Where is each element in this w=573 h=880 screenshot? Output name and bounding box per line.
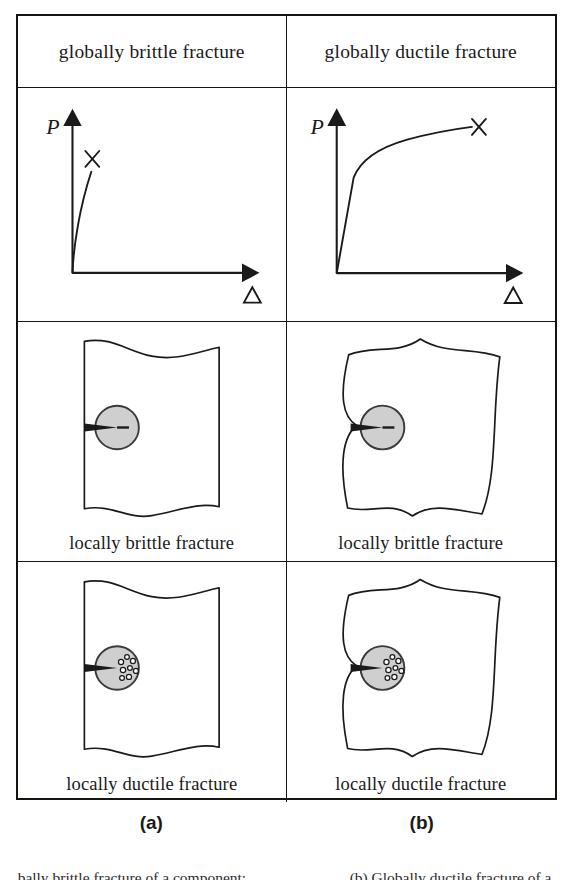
fracture-matrix-table: globally brittle fracture globally ducti… xyxy=(16,14,557,800)
panel-label-b: (b) xyxy=(287,806,558,840)
figure-caption-left: ...bally brittle fracture of a component… xyxy=(6,868,246,880)
ductile-load-displacement-chart: P xyxy=(287,88,556,321)
x-axis-label-delta-glyph xyxy=(244,287,261,302)
header-cell-globally-brittle: globally brittle fracture xyxy=(18,16,287,88)
y-axis-label: P xyxy=(309,115,323,139)
load-displacement-curve xyxy=(72,172,91,273)
header-label-globally-ductile: globally ductile fracture xyxy=(325,40,517,64)
specimen-cell-ductile-global-brittle-local: locally brittle fracture xyxy=(287,322,556,562)
specimen-cell-brittle-global-ductile-local: locally ductile fracture xyxy=(18,562,287,802)
figure-caption-right: (b) Globally ductile fracture of a ... xyxy=(350,868,567,880)
specimen-cell-brittle-global-brittle-local: locally brittle fracture xyxy=(18,322,287,562)
figure-caption: ...bally brittle fracture of a component… xyxy=(0,868,573,880)
specimen-undeformed-brittle-zone xyxy=(18,322,286,532)
fracture-classification-figure: globally brittle fracture globally ducti… xyxy=(0,0,573,880)
specimen-caption: locally brittle fracture xyxy=(18,532,286,561)
failure-marker-x xyxy=(85,151,99,167)
specimen-caption: locally ductile fracture xyxy=(18,773,286,802)
y-axis-label: P xyxy=(45,115,59,139)
panel-label-a: (a) xyxy=(16,806,287,840)
specimen-caption: locally brittle fracture xyxy=(287,532,556,561)
specimen-caption: locally ductile fracture xyxy=(287,773,556,802)
specimen-deformed-brittle-zone xyxy=(287,322,556,532)
chart-cell-ductile-load-displacement: P xyxy=(287,88,556,322)
header-label-globally-brittle: globally brittle fracture xyxy=(59,40,245,64)
load-displacement-curve xyxy=(336,127,471,273)
specimen-undeformed-ductile-zone xyxy=(18,562,286,773)
x-axis-label-delta-glyph xyxy=(504,288,521,303)
header-cell-globally-ductile: globally ductile fracture xyxy=(287,16,556,88)
specimen-cell-ductile-global-ductile-local: locally ductile fracture xyxy=(287,562,556,802)
panel-label-row: (a) (b) xyxy=(16,806,557,840)
failure-marker-x xyxy=(471,119,485,135)
chart-cell-brittle-load-displacement: P xyxy=(18,88,287,322)
specimen-deformed-ductile-zone xyxy=(287,562,556,773)
brittle-load-displacement-chart: P xyxy=(18,88,286,321)
